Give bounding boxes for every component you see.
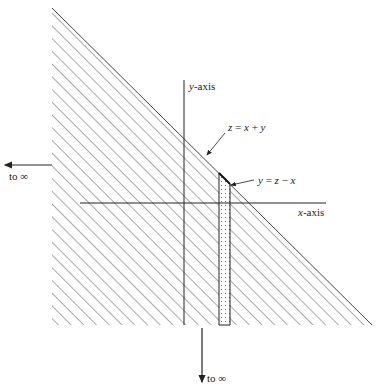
x-axis-label: x-axis <box>297 206 324 218</box>
y-axis-label: y-axis <box>188 80 215 92</box>
line-z-label: z = x + y <box>227 121 266 133</box>
line-z-leader <box>207 133 225 155</box>
strip-top-label: y = z − x <box>257 174 296 186</box>
strip-top-leader <box>231 180 254 185</box>
to-infinity-down-label: to ∞ <box>207 372 226 384</box>
integration-strip-dots <box>219 173 230 325</box>
to-infinity-left-label: to ∞ <box>9 170 28 182</box>
diagram-canvas: y-axis x-axis z = x + y y = z − x to ∞ t… <box>0 0 388 392</box>
